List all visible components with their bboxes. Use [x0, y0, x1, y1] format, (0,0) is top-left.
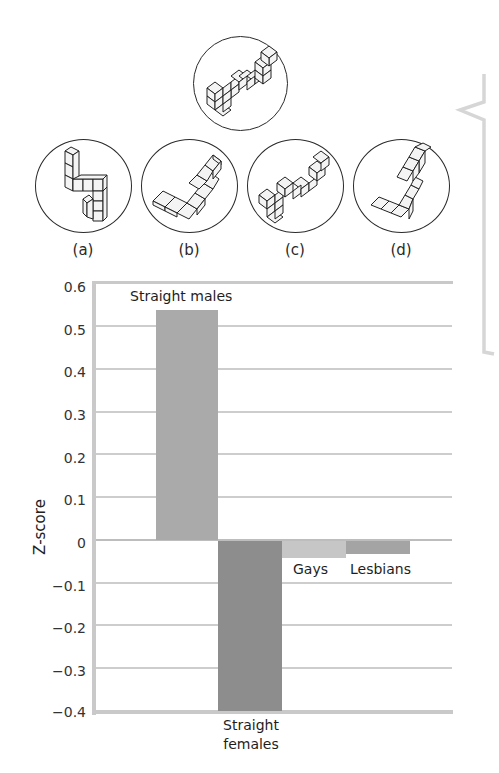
y-tick-label: −0.3 [26, 663, 86, 679]
gridline [96, 453, 452, 455]
gridline [96, 411, 452, 413]
option-b-label: (b) [169, 241, 209, 259]
option-a-label: (a) [63, 241, 103, 259]
gridline [96, 325, 452, 327]
option-a-cube-shape-icon [35, 139, 132, 233]
y-tick-label: −0.4 [26, 704, 86, 720]
option-d-label: (d) [381, 241, 421, 259]
y-tick-label: 0.6 [26, 279, 86, 295]
y-tick-label: 0.1 [26, 492, 86, 508]
bar-label-straight-males: Straight males [130, 288, 232, 305]
gridline [96, 368, 452, 370]
bar-straight-males [156, 310, 218, 540]
option-c-label: (c) [275, 241, 315, 259]
bar-straight-females [218, 541, 282, 711]
y-tick-label: 0.5 [26, 322, 86, 338]
y-tick-label: 0.4 [26, 364, 86, 380]
option-d-cube-shape-icon [353, 139, 450, 233]
y-tick-label: −0.1 [26, 578, 86, 594]
y-tick-label: 0 [26, 535, 86, 551]
y-tick-label: 0.2 [26, 450, 86, 466]
option-c-cube-shape-icon [247, 139, 344, 233]
page-bracket-decoration-icon [450, 70, 499, 365]
bar-label-lesbians: Lesbians [350, 561, 411, 578]
bar-label-gays: Gays [293, 561, 328, 578]
bar-lesbians [346, 541, 410, 554]
plot-frame-top [92, 281, 453, 284]
plot-frame-left [92, 281, 96, 715]
option-b-cube-shape-icon [141, 139, 238, 233]
y-tick-label: 0.3 [26, 407, 86, 423]
bar-label-straight-females-line2: females [218, 736, 284, 753]
gridline [96, 496, 452, 498]
bar-gays [282, 541, 346, 558]
target-cube-shape-icon [193, 36, 288, 131]
bar-label-straight-females-line1: Straight [218, 717, 284, 734]
y-tick-label: −0.2 [26, 620, 86, 636]
